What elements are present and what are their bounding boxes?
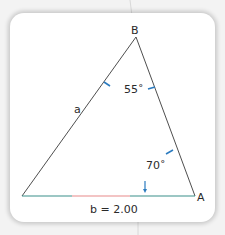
triangle-diagram: B A a b = 2.00 55˚ 70˚ [0, 0, 225, 235]
angle-marker-a-top [166, 150, 173, 154]
side-a [22, 37, 136, 196]
side-label-b: b = 2.00 [90, 203, 138, 216]
arrow-icon [143, 189, 147, 193]
angle-label-a: 70˚ [146, 159, 166, 172]
angle-label-b: 55˚ [124, 83, 144, 96]
side-c [136, 37, 195, 196]
side-label-a: a [74, 103, 81, 116]
vertex-label-a: A [197, 191, 205, 204]
angle-marker-b-left [104, 82, 110, 86]
vertex-label-b: B [131, 24, 139, 37]
angle-marker-b-right [148, 87, 155, 89]
